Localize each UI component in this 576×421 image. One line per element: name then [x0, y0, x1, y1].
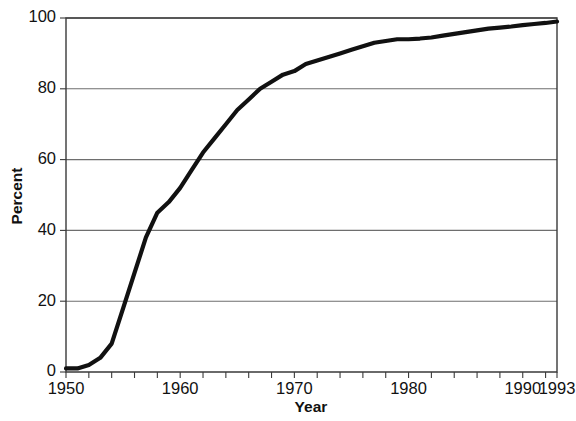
y-tick-label-40: 40 — [38, 220, 56, 238]
x-tick-label-1970: 1970 — [276, 379, 313, 397]
y-axis-ticks-group — [60, 18, 66, 372]
x-axis-title: Year — [295, 398, 328, 415]
x-tick-label-1990: 1990 — [504, 379, 541, 397]
x-tick-label-1950: 1950 — [48, 379, 85, 397]
chart-figure: 020406080100 195019601970198019901993 Ye… — [0, 0, 576, 421]
plot-area-background — [66, 18, 557, 372]
y-tick-label-20: 20 — [38, 291, 56, 309]
x-tick-label-1993: 1993 — [539, 379, 576, 397]
y-tick-label-0: 0 — [47, 361, 56, 379]
line-chart-svg: 020406080100 195019601970198019901993 Ye… — [0, 0, 576, 421]
y-tick-label-60: 60 — [38, 149, 56, 167]
y-tick-label-100: 100 — [28, 7, 56, 25]
x-tick-label-1960: 1960 — [162, 379, 199, 397]
x-tick-label-1980: 1980 — [390, 379, 427, 397]
y-axis-title: Percent — [8, 168, 25, 225]
y-tick-label-80: 80 — [38, 78, 56, 96]
x-axis-tick-labels-group: 195019601970198019901993 — [48, 379, 576, 397]
x-axis-ticks-group — [66, 372, 557, 378]
y-axis-tick-labels-group: 020406080100 — [28, 7, 56, 379]
